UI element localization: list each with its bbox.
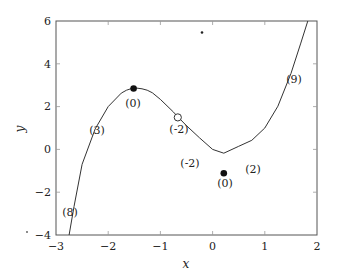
- annotation: (-2): [180, 157, 199, 170]
- y-tick-label: 6: [44, 15, 51, 28]
- annotation: (3): [89, 124, 105, 137]
- local-min-point: [221, 170, 228, 177]
- chart: −3 −2 −1 0 1 2 −4 −2 0 2 4 6 x y (8) (3)…: [0, 0, 338, 278]
- local-max-point: [130, 85, 137, 92]
- chart-svg: −3 −2 −1 0 1 2 −4 −2 0 2 4 6 x y (8) (3)…: [0, 0, 338, 278]
- x-tick-label: −2: [100, 240, 116, 253]
- stray-dot: [201, 31, 204, 34]
- annotation: (0): [217, 177, 233, 190]
- y-tick-label: 4: [44, 58, 51, 71]
- y-tick-label: −2: [35, 186, 51, 199]
- annotation: (9): [286, 73, 302, 86]
- annotation: (8): [62, 206, 78, 219]
- y-tick-label: 0: [44, 143, 51, 156]
- x-tick-label: 1: [261, 240, 268, 253]
- x-axis-label: x: [183, 257, 190, 271]
- y-tick-label: 2: [44, 100, 51, 113]
- stray-dot: [26, 231, 28, 233]
- y-tick-label: −4: [35, 229, 51, 242]
- y-axis-label: y: [13, 125, 27, 133]
- annotation: (0): [125, 97, 141, 110]
- annotation: (-2): [169, 123, 188, 136]
- x-tick-label: −1: [152, 240, 168, 253]
- x-tick-label: 0: [209, 240, 216, 253]
- function-curve: [69, 10, 310, 235]
- x-tick-label: 2: [314, 240, 321, 253]
- inflection-point: [174, 114, 181, 121]
- annotation: (2): [245, 163, 261, 176]
